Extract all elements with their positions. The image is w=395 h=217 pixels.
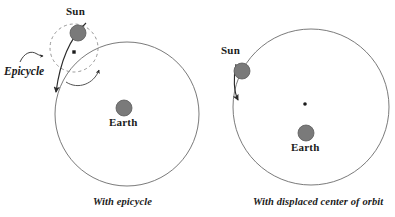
- earth-body-right: [298, 125, 314, 141]
- sun-label-left: Sun: [66, 6, 85, 17]
- displaced-orbit-center-dot: [303, 102, 307, 106]
- earth-label-left: Earth: [109, 117, 138, 128]
- panel-with-epicycle: [20, 23, 199, 186]
- caption-with-epicycle: With epicycle: [93, 196, 152, 207]
- sun-body-right: [234, 63, 250, 79]
- eccentric-orbit-circle: [233, 29, 389, 185]
- ptolemaic-models-figure: Sun Earth Epicycle Sun Earth With epicyc…: [0, 0, 395, 217]
- earth-label-right: Earth: [291, 142, 320, 153]
- earth-body-left: [116, 100, 132, 116]
- epicycle-center-marker: [72, 50, 75, 53]
- epicycle-label: Epicycle: [4, 66, 44, 78]
- epicycle-label-pointer-arrow: [20, 52, 43, 62]
- epicycle-motion-arrow: [66, 70, 99, 86]
- sun-label-right: Sun: [221, 45, 240, 56]
- caption-with-displaced-center: With displaced center of orbit: [253, 196, 383, 207]
- panel-with-displaced-center: [233, 29, 389, 185]
- sun-body-left: [70, 25, 86, 41]
- diagram-canvas: [0, 0, 395, 217]
